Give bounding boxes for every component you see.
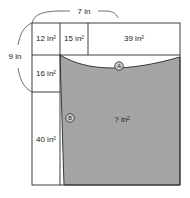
marker-a-label: A — [117, 63, 121, 69]
cell-label-12: 12 in² — [36, 34, 56, 43]
marker-b: B — [66, 114, 75, 123]
dimension-label-top: 7 in — [78, 7, 91, 16]
figure-canvas: 7 in 9 in 12 in² 15 in² 39 in² 16 in² 40… — [0, 0, 190, 198]
cell-label-40: 40 in² — [36, 135, 56, 144]
cell-label-39: 39 in² — [124, 34, 144, 43]
geometry-figure: 7 in 9 in 12 in² 15 in² 39 in² 16 in² 40… — [0, 0, 190, 198]
dimension-top-7in: 7 in — [32, 7, 118, 23]
cell-label-unknown: ? in² — [114, 115, 130, 124]
cell-label-16: 16 in² — [36, 69, 56, 78]
brace-left-upper — [18, 23, 32, 45]
marker-b-label: B — [68, 115, 72, 121]
dimension-label-left: 9 in — [9, 52, 22, 61]
brace-top-left — [32, 11, 70, 23]
brace-top-right — [98, 11, 118, 18]
dimension-left-9in: 9 in — [9, 23, 32, 92]
marker-a: A — [115, 62, 124, 71]
brace-left-lower — [18, 68, 32, 92]
cell-label-15: 15 in² — [64, 34, 84, 43]
